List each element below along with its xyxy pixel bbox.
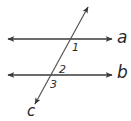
- line-a-label: a: [117, 29, 127, 46]
- angle-3-label: 3: [50, 79, 57, 90]
- line-b-label: b: [117, 64, 128, 81]
- parallel-lines-transversal-diagram: [0, 0, 131, 121]
- transversal-c: [35, 7, 88, 104]
- angle-2-label: 2: [59, 64, 66, 75]
- angle-1-label: 1: [72, 42, 79, 53]
- line-c-label: c: [27, 104, 35, 119]
